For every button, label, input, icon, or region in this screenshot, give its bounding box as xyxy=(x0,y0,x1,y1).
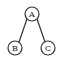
node-c-label: C xyxy=(45,44,51,53)
edge-a-b xyxy=(19,19,27,42)
node-c: C xyxy=(41,41,55,55)
node-a-label: A xyxy=(28,10,35,19)
edge-a-c xyxy=(37,19,45,42)
node-b: B xyxy=(8,41,22,55)
node-b-label: B xyxy=(12,44,18,53)
node-a: A xyxy=(25,7,39,21)
tree-diagram: A B C xyxy=(0,0,64,63)
